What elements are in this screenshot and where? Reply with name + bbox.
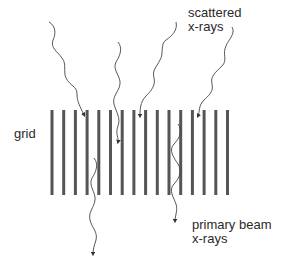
- grid-bar: [121, 110, 124, 195]
- antiscatter-grid-diagram: scattered x-rays grid primary beam x-ray…: [0, 0, 281, 268]
- scattered-ray-arrow: [49, 22, 84, 115]
- grid-bar: [226, 110, 229, 195]
- grid-lamellae: [51, 110, 230, 195]
- grid-bar: [214, 110, 217, 195]
- scattered-xrays-label: scattered x-rays: [188, 6, 241, 34]
- grid-bar: [86, 110, 89, 195]
- primary-ray-arrow: [171, 124, 180, 221]
- grid-bar: [62, 110, 65, 195]
- grid-label-text: grid: [14, 127, 36, 141]
- primary-ray-arrow: [90, 158, 97, 254]
- grid-bar: [132, 110, 135, 195]
- grid-label: grid: [14, 127, 36, 141]
- grid-bar: [51, 110, 54, 195]
- scattered-label-line2: x-rays: [188, 20, 241, 34]
- grid-bar: [144, 110, 147, 195]
- grid-bar: [74, 110, 77, 195]
- grid-bar: [203, 110, 206, 195]
- grid-bar: [179, 110, 182, 195]
- grid-bar: [97, 110, 100, 195]
- primary-label-line1: primary beam: [192, 218, 271, 232]
- scattered-label-line1: scattered: [188, 6, 241, 20]
- grid-bar: [191, 110, 194, 195]
- scattered-ray-arrow: [114, 42, 121, 142]
- grid-bar: [109, 110, 112, 195]
- primary-beam-label: primary beam x-rays: [192, 218, 271, 246]
- scattered-ray-arrow: [140, 22, 176, 116]
- grid-bar: [168, 110, 171, 195]
- scattered-ray-arrow: [198, 27, 233, 116]
- primary-label-line2: x-rays: [192, 232, 271, 246]
- grid-bar: [156, 110, 159, 195]
